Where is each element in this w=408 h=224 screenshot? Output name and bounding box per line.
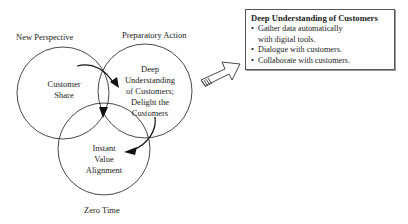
center-intersection-marker (99, 107, 108, 118)
curved-arrow-2 (133, 117, 155, 150)
text-line: Delight the (115, 97, 185, 108)
text-line: Alignment (74, 165, 134, 176)
callout-bullet: Collaborate with customers. (251, 56, 394, 67)
label-preparatory-action: Preparatory Action (122, 30, 186, 41)
text-line: Instant (74, 143, 134, 154)
text-line: Value (74, 154, 134, 165)
text-line: Customers (115, 108, 185, 119)
text-line: Share (34, 90, 94, 101)
callout-box: Deep Understanding of Customers Gather d… (245, 9, 395, 70)
callout-bullet-list: Gather data automatically with digital t… (251, 24, 394, 66)
customer-share-text: Customer Share (34, 79, 94, 101)
deep-understanding-text: Deep Understanding of Customers; Delight… (115, 64, 185, 119)
text-line: Deep (115, 64, 185, 75)
label-new-perspective: New Perspective (16, 32, 73, 43)
instant-value-alignment-text: Instant Value Alignment (74, 143, 134, 176)
callout-bullet: Gather data automatically with digital t… (251, 24, 358, 45)
large-outline-arrow-icon (201, 62, 240, 87)
callout-bullet: Dialogue with customers. (251, 45, 394, 56)
text-line: Customer (34, 79, 94, 90)
label-zero-time: Zero Time (84, 205, 120, 216)
text-line: Understanding (115, 75, 185, 86)
text-line: of Customers; (115, 86, 185, 97)
callout-title: Deep Understanding of Customers (251, 13, 394, 24)
